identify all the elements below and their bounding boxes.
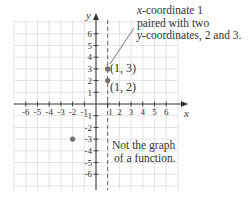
svg-text:-2: -2 xyxy=(69,107,77,117)
svg-text:2: 2 xyxy=(88,76,93,86)
svg-text:-2: -2 xyxy=(85,123,93,133)
svg-text:-4: -4 xyxy=(85,146,93,156)
x-axis-label: x xyxy=(183,107,189,119)
y-axis-arrow-icon xyxy=(93,13,99,20)
annotation-bottom: Not the graph of a function. xyxy=(112,139,176,164)
svg-text:4: 4 xyxy=(88,52,93,62)
annotation-top-line1: x-coordinate 1 xyxy=(137,4,241,17)
annotation-top-line2: paired with two xyxy=(137,17,241,30)
svg-text:2: 2 xyxy=(117,107,122,117)
annotation-top: x-coordinate 1 paired with two y-coordin… xyxy=(137,4,241,42)
annotation-top-line3: y-coordinates, 2 and 3. xyxy=(137,29,241,42)
y-axis-label: y xyxy=(85,9,91,21)
axes xyxy=(14,18,184,190)
svg-text:-5: -5 xyxy=(34,107,42,117)
point-label-1-2: (1, 2) xyxy=(110,80,136,95)
svg-text:1: 1 xyxy=(108,107,113,117)
svg-text:3: 3 xyxy=(88,64,93,74)
annotation-bottom-line1: Not the graph xyxy=(112,139,176,152)
svg-text:-4: -4 xyxy=(45,107,53,117)
svg-text:-3: -3 xyxy=(57,107,65,117)
svg-text:6: 6 xyxy=(164,107,169,117)
svg-text:6: 6 xyxy=(88,29,93,39)
point-label-1-3: (1, 3) xyxy=(110,61,136,76)
svg-text:-3: -3 xyxy=(85,134,93,144)
svg-text:-6: -6 xyxy=(22,107,30,117)
annotation-bottom-line2: of a function. xyxy=(112,152,176,165)
svg-text:-6: -6 xyxy=(85,169,93,179)
svg-text:-1: -1 xyxy=(85,111,93,121)
svg-text:-5: -5 xyxy=(85,158,93,168)
svg-text:4: 4 xyxy=(141,107,146,117)
svg-text:3: 3 xyxy=(129,107,134,117)
svg-text:1: 1 xyxy=(88,88,93,98)
svg-text:5: 5 xyxy=(152,107,157,117)
svg-text:5: 5 xyxy=(88,41,93,51)
point-neg2-neg3 xyxy=(70,137,75,142)
